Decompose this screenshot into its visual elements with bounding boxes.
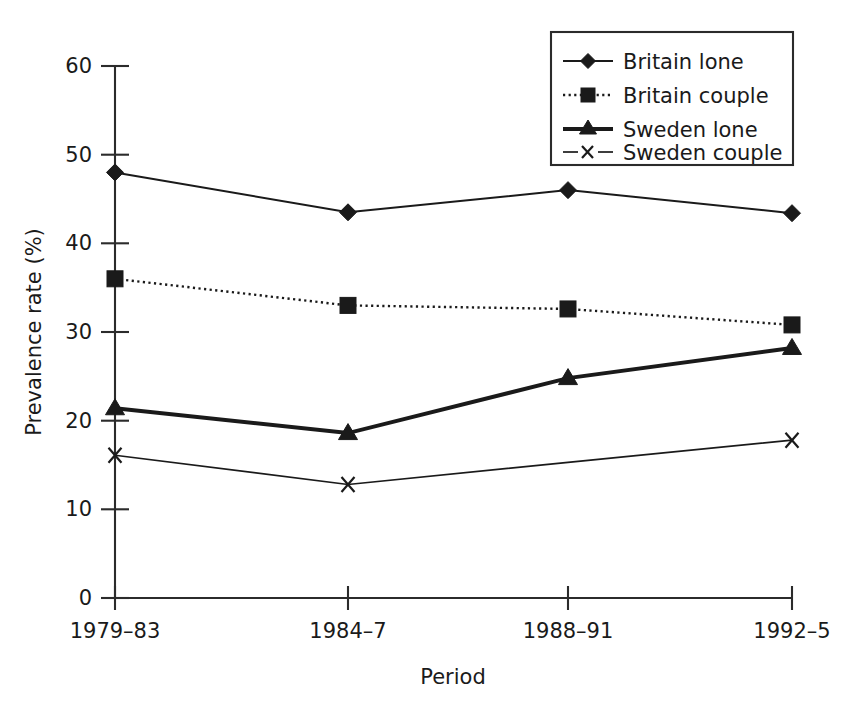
y-tick-label-10: 10 bbox=[65, 497, 92, 521]
data-point-triangle bbox=[106, 399, 125, 415]
x-axis-title: Period bbox=[420, 665, 485, 689]
y-tick-label-60: 60 bbox=[65, 54, 92, 78]
x-tick-label-2: 1984–7 bbox=[309, 619, 386, 643]
series-line-britain-couple bbox=[115, 279, 792, 325]
series-line-sweden-couple bbox=[115, 440, 792, 484]
series-line-sweden-lone bbox=[115, 348, 792, 433]
legend-label-sweden-couple: Sweden couple bbox=[623, 141, 782, 165]
y-axis-tick-labels: 0 10 20 30 40 50 60 bbox=[65, 54, 92, 610]
y-tick-label-0: 0 bbox=[79, 586, 92, 610]
series-britain-couple bbox=[107, 271, 800, 333]
x-tick-label-4: 1992–5 bbox=[753, 619, 830, 643]
series-sweden-couple bbox=[109, 433, 799, 492]
data-point-square bbox=[560, 301, 576, 317]
legend-label-britain-lone: Britain lone bbox=[623, 50, 744, 74]
square-icon bbox=[581, 88, 595, 102]
x-tick-label-1: 1979–83 bbox=[70, 619, 161, 643]
y-tick-label-40: 40 bbox=[65, 231, 92, 255]
y-tick-label-20: 20 bbox=[65, 409, 92, 433]
legend-label-sweden-lone: Sweden lone bbox=[623, 118, 758, 142]
prevalence-rate-line-chart: 0 10 20 30 40 50 60 1979–83 1984–7 1988–… bbox=[0, 0, 866, 717]
data-point-diamond bbox=[107, 164, 124, 181]
x-axis-tick-labels: 1979–83 1984–7 1988–91 1992–5 bbox=[70, 619, 831, 643]
x-tick-label-3: 1988–91 bbox=[523, 619, 614, 643]
plot-series-layer bbox=[106, 164, 802, 492]
data-point-triangle bbox=[783, 338, 802, 354]
series-sweden-lone bbox=[106, 338, 802, 439]
series-britain-lone bbox=[107, 164, 801, 222]
legend-label-britain-couple: Britain couple bbox=[623, 84, 769, 108]
data-point-square bbox=[784, 317, 800, 333]
y-tick-label-30: 30 bbox=[65, 320, 92, 344]
chart-container: 0 10 20 30 40 50 60 1979–83 1984–7 1988–… bbox=[0, 0, 866, 717]
chart-legend: Britain lone Britain couple Sweden lone bbox=[551, 32, 793, 165]
data-point-square bbox=[340, 297, 356, 313]
data-point-diamond bbox=[340, 204, 357, 221]
y-axis-title: Prevalence rate (%) bbox=[22, 228, 46, 436]
data-point-square bbox=[107, 271, 123, 287]
data-point-diamond bbox=[784, 205, 801, 222]
data-point-diamond bbox=[560, 182, 577, 199]
series-line-britain-lone bbox=[115, 172, 792, 213]
y-tick-label-50: 50 bbox=[65, 143, 92, 167]
